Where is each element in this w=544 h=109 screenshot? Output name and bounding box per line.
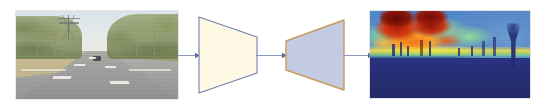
output-texture xyxy=(370,11,530,98)
output-map xyxy=(370,11,530,98)
encoder-block xyxy=(198,16,258,94)
encoder-decoder-pipeline xyxy=(0,0,544,109)
arrow-encoder-to-decoder xyxy=(256,51,287,60)
input-texture xyxy=(16,11,178,99)
input-image xyxy=(16,11,178,99)
decoder-block xyxy=(285,19,345,91)
arrow-decoder-to-output xyxy=(343,51,373,60)
arrow-input-to-encoder xyxy=(178,51,200,60)
